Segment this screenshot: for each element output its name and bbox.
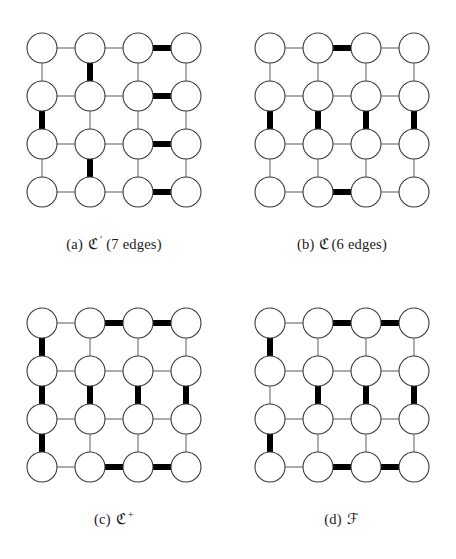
graph-node-r4-c2 <box>303 452 333 482</box>
graph-node-r3-c3 <box>123 404 153 434</box>
graph-node-r3-c4 <box>171 404 201 434</box>
graph-node-r2-c2 <box>75 81 105 111</box>
graph-node-r2-c2 <box>303 356 333 386</box>
graph-node-r3-c1 <box>27 129 57 159</box>
panel-a-caption-tag: (a) <box>66 236 83 252</box>
graph-node-r3-c2 <box>75 129 105 159</box>
graph-node-r4-c4 <box>171 177 201 207</box>
graph-node-r3-c3 <box>351 404 381 434</box>
graph-node-r2-c3 <box>123 81 153 111</box>
panel-c-graph <box>0 283 228 515</box>
graph-node-r2-c1 <box>27 356 57 386</box>
graph-node-r2-c3 <box>351 356 381 386</box>
graph-node-r3-c2 <box>75 404 105 434</box>
graph-node-r4-c1 <box>255 177 285 207</box>
grid-graph-b <box>228 8 456 240</box>
graph-node-r3-c4 <box>399 129 429 159</box>
graph-node-r1-c3 <box>123 308 153 338</box>
graph-node-r2-c4 <box>399 81 429 111</box>
grid-graph-a <box>0 8 228 240</box>
panel-d: (d) ℱ <box>228 283 456 559</box>
graph-node-r1-c3 <box>351 33 381 63</box>
graph-node-r3-c1 <box>27 404 57 434</box>
panel-a-graph <box>0 8 228 240</box>
graph-node-r2-c1 <box>255 81 285 111</box>
panel-c-caption: (c) ℭ+ <box>0 511 228 528</box>
panel-a-caption-symbol: ℭ <box>87 236 100 252</box>
grid-graph-c <box>0 283 228 515</box>
graph-node-r3-c4 <box>399 404 429 434</box>
panel-a-caption-rest: (7 edges) <box>106 236 161 252</box>
graph-node-r4-c1 <box>27 452 57 482</box>
panel-c-caption-symbol: ℭ <box>115 511 128 527</box>
graph-node-r3-c1 <box>255 404 285 434</box>
graph-node-r2-c3 <box>123 356 153 386</box>
graph-node-r4-c1 <box>255 452 285 482</box>
graph-node-r1-c4 <box>399 33 429 63</box>
panel-a-caption-superscript: ′ <box>100 234 102 245</box>
graph-node-r2-c3 <box>351 81 381 111</box>
graph-node-r1-c3 <box>351 308 381 338</box>
graph-node-r1-c4 <box>399 308 429 338</box>
graph-node-r4-c2 <box>75 177 105 207</box>
panel-c-caption-tag: (c) <box>94 511 111 527</box>
graph-node-r2-c4 <box>399 356 429 386</box>
panel-d-graph <box>228 283 456 515</box>
graph-node-r4-c3 <box>123 177 153 207</box>
figure-root: (a) ℭ′ (7 edges) (b) ℭ(6 edges) (c) ℭ+ (… <box>0 0 456 559</box>
graph-node-r3-c3 <box>351 129 381 159</box>
graph-node-r4-c3 <box>351 452 381 482</box>
panel-c-caption-superscript: + <box>128 509 134 520</box>
panel-b-graph <box>228 8 456 240</box>
graph-node-r1-c1 <box>27 33 57 63</box>
panel-c: (c) ℭ+ <box>0 283 228 559</box>
graph-node-r2-c1 <box>255 356 285 386</box>
panel-d-caption-symbol: ℱ <box>346 511 360 527</box>
graph-node-r1-c2 <box>75 308 105 338</box>
panel-b-caption-rest: (6 edges) <box>332 236 387 252</box>
graph-node-r3-c2 <box>303 404 333 434</box>
graph-node-r4-c3 <box>351 177 381 207</box>
graph-node-r4-c2 <box>75 452 105 482</box>
graph-node-r2-c2 <box>75 356 105 386</box>
graph-node-r4-c4 <box>399 177 429 207</box>
panel-b-caption-tag: (b) <box>297 236 315 252</box>
graph-node-r4-c3 <box>123 452 153 482</box>
panel-b: (b) ℭ(6 edges) <box>228 8 456 288</box>
graph-node-r1-c3 <box>123 33 153 63</box>
graph-node-r1-c4 <box>171 308 201 338</box>
panel-d-caption-tag: (d) <box>324 511 342 527</box>
graph-node-r3-c2 <box>303 129 333 159</box>
panel-b-caption-symbol: ℭ <box>318 236 331 252</box>
graph-node-r2-c2 <box>303 81 333 111</box>
graph-node-r3-c1 <box>255 129 285 159</box>
panel-b-caption: (b) ℭ(6 edges) <box>228 236 456 253</box>
graph-node-r1-c2 <box>75 33 105 63</box>
graph-node-r4-c4 <box>171 452 201 482</box>
graph-node-r3-c4 <box>171 129 201 159</box>
graph-node-r1-c1 <box>27 308 57 338</box>
graph-node-r2-c4 <box>171 81 201 111</box>
panel-a-caption: (a) ℭ′ (7 edges) <box>0 236 228 253</box>
graph-node-r2-c1 <box>27 81 57 111</box>
graph-node-r4-c2 <box>303 177 333 207</box>
graph-node-r4-c4 <box>399 452 429 482</box>
graph-node-r2-c4 <box>171 356 201 386</box>
graph-node-r1-c1 <box>255 308 285 338</box>
panel-a: (a) ℭ′ (7 edges) <box>0 8 228 288</box>
panel-d-caption: (d) ℱ <box>228 511 456 528</box>
graph-node-r1-c2 <box>303 33 333 63</box>
grid-graph-d <box>228 283 456 515</box>
graph-node-r1-c4 <box>171 33 201 63</box>
graph-node-r1-c2 <box>303 308 333 338</box>
graph-node-r3-c3 <box>123 129 153 159</box>
graph-node-r1-c1 <box>255 33 285 63</box>
graph-node-r4-c1 <box>27 177 57 207</box>
